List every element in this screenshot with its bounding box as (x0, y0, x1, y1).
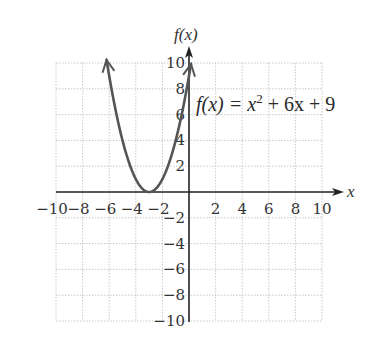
axes (56, 46, 344, 322)
x-tick-label: 4 (237, 200, 247, 218)
y-tick-label: −4 (163, 235, 185, 253)
function-equation-label: f(x) = x2 + 6x + 9 (196, 91, 335, 116)
x-tick-label: 6 (264, 200, 274, 218)
y-tick-label: 8 (175, 80, 185, 98)
y-tick-label: −8 (163, 286, 185, 304)
x-tick-label: 8 (291, 200, 301, 218)
x-tick-label: −8 (68, 200, 90, 218)
x-tick-label: −4 (121, 200, 143, 218)
x-tick-label: 10 (312, 200, 331, 218)
y-tick-label: −2 (163, 209, 185, 227)
x-tick-label: −6 (94, 200, 116, 218)
x-tick-label: −10 (36, 200, 68, 218)
y-axis-label: f(x) (174, 25, 198, 44)
y-tick-label: −6 (163, 260, 185, 278)
y-tick-label: 10 (166, 54, 185, 72)
x-axis-label: x (346, 182, 355, 201)
y-tick-label: −10 (153, 312, 185, 330)
x-tick-label: 2 (211, 200, 221, 218)
coordinate-plane: −10−8−6−4−2246810108642−2−4−6−8−10 x f(x… (0, 0, 377, 344)
y-tick-label: 2 (175, 157, 185, 175)
